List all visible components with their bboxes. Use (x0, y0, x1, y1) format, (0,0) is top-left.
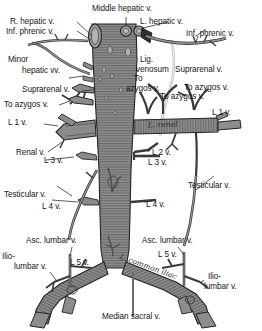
anatomy-figure-inferior-vena-cava: R. hepatic v. Inf. phrenic v. Middle hep… (0, 0, 262, 331)
label-testicular-vein-left: Testicular v. (4, 190, 46, 199)
label-renal-vein-left: Renal v. (16, 148, 45, 157)
label-suprarenal-vein-left: Suprarenal v. (22, 85, 69, 94)
label-inf-phrenic-vein-right: Inf. phrenic v. (186, 29, 234, 38)
label-ilio-lumbar-left-line2: lumbar v. (14, 262, 47, 271)
label-to-azygos-center-line2: azygos v. (126, 84, 160, 93)
label-l-hepatic-vein: L. hepatic v. (140, 17, 183, 26)
label-l1-vein-left: L 1 v. (8, 118, 27, 127)
label-lig-venosum-line1: Lig. (140, 55, 153, 64)
label-l5-vein-right: L 5 v. (158, 250, 177, 259)
label-middle-hepatic-vein: Middle hepatic v. (92, 4, 152, 13)
label-asc-lumbar-vein-right: Asc. lumbar v. (142, 236, 193, 245)
inferior-vena-cava-trunk (92, 24, 137, 268)
label-ilio-lumbar-right-line1: Ilio- (208, 272, 221, 281)
label-r-hepatic-vein: R. hepatic v. (10, 17, 54, 26)
label-minor-hepatic-veins-line1: Minor (8, 55, 28, 64)
label-to-azygos-left: To azygos v. (4, 100, 48, 109)
label-ilio-lumbar-left-line1: Ilio- (2, 252, 15, 261)
label-l3-vein-right: L 3 v. (148, 158, 167, 167)
l3-vein-left (76, 152, 97, 160)
to-azygos-vein-center (140, 92, 157, 114)
label-l5-vein-left: L 5 v. (70, 258, 89, 267)
label-testicular-vein-right: Testicular v. (188, 181, 230, 190)
label-l3-vein-left: L 3 v. (44, 156, 63, 165)
label-to-azygos-center-line1: To (134, 74, 143, 83)
label-asc-lumbar-vein-left: Asc. lumbar v. (26, 236, 77, 245)
label-inf-phrenic-vein-left: Inf. phrenic v. (6, 27, 54, 36)
label-l1-vein-right: L 1 v. (212, 108, 231, 117)
label-l2-vein-right: L 2 v. (152, 148, 171, 157)
label-minor-hepatic-veins-line2: hepatic vv. (22, 66, 60, 75)
label-median-sacral-vein: Median sacral v. (102, 312, 160, 321)
label-to-azygos-right-lower: To azygos v. (184, 83, 228, 92)
label-l4-vein-left: L 4 v. (42, 202, 61, 211)
label-to-azygos-right-upper: To azygos v. (160, 92, 204, 101)
label-lig-venosum-line2: venosum (136, 65, 169, 74)
label-suprarenal-vein-right: Suprarenal v. (175, 65, 222, 74)
to-azygos-vein-left (62, 95, 93, 105)
label-left-renal-script: L. renal (148, 119, 178, 129)
label-l4-vein-right: L 4 v. (146, 200, 165, 209)
right-renal-vein (56, 114, 96, 148)
label-ilio-lumbar-right-line2: lumbar v. (204, 282, 237, 291)
